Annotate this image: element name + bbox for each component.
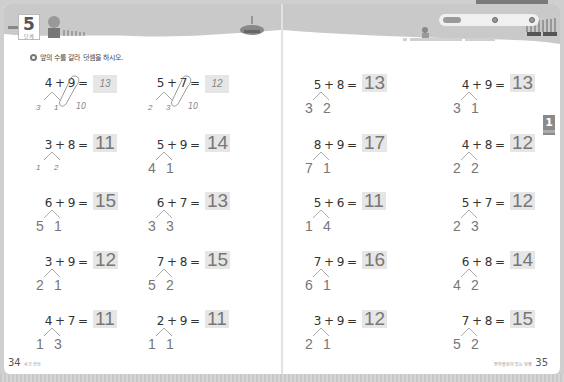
split-part-1[interactable]: 1 (148, 336, 156, 352)
answer-box[interactable]: 13 (205, 192, 230, 210)
equals-sign: = (493, 194, 507, 212)
answer-box[interactable]: 11 (205, 310, 229, 328)
split-part-1[interactable]: 3 (148, 218, 156, 234)
answer-box[interactable]: 17 (362, 134, 387, 152)
answer-box[interactable]: 12 (510, 192, 535, 210)
addend-a: 5 (156, 74, 165, 92)
split-part-2[interactable]: 2 (471, 277, 479, 293)
equals-sign: = (493, 312, 507, 330)
answer-box[interactable]: 11 (362, 192, 386, 210)
addition-problem: 5+8=1332 (313, 74, 433, 118)
answer-box[interactable]: 11 (93, 310, 117, 328)
chapter-tab-label: 1 (545, 116, 553, 129)
equation: 5+7=12 (461, 192, 535, 210)
page-number: 35 (535, 357, 548, 368)
split-part-2[interactable]: 1 (54, 218, 62, 234)
split-part-1[interactable]: 1 (36, 336, 44, 352)
split-part-1[interactable]: 6 (305, 277, 313, 293)
split-part-2[interactable]: 2 (471, 160, 479, 176)
chapter-tab[interactable]: 1 (543, 115, 555, 135)
equation: 5+7=12 (156, 74, 229, 92)
split-part-2[interactable]: 3 (54, 336, 62, 352)
split-part-1[interactable]: 5 (148, 277, 156, 293)
equation: 7+8=15 (156, 251, 230, 269)
answer-box[interactable]: 13 (93, 75, 117, 93)
answer-box[interactable]: 12 (362, 310, 387, 328)
split-part-2[interactable]: 2 (323, 100, 331, 116)
split-part-2[interactable]: 1 (323, 277, 331, 293)
equation: 6+9=15 (44, 192, 118, 210)
split-part-1[interactable]: 4 (453, 277, 461, 293)
addend-a: 4 (44, 74, 53, 92)
bullet-icon (30, 54, 37, 61)
equals-sign: = (76, 194, 90, 212)
split-part-1[interactable]: 3 (36, 103, 40, 112)
split-part-2[interactable]: 2 (471, 336, 479, 352)
equals-sign: = (76, 312, 90, 330)
equals-sign: = (345, 136, 359, 154)
progress-dot (492, 17, 498, 23)
split-part-1[interactable]: 2 (305, 336, 313, 352)
ten-label: 10 (188, 102, 198, 111)
equals-sign: = (188, 136, 202, 154)
progress-indicator (439, 14, 539, 26)
split-part-2[interactable]: 1 (166, 160, 174, 176)
equals-sign: = (345, 312, 359, 330)
answer-box[interactable]: 14 (205, 134, 230, 152)
addition-problem: 5+6=1114 (313, 192, 433, 236)
answer-box[interactable]: 16 (362, 251, 387, 269)
split-part-2[interactable]: 1 (323, 160, 331, 176)
split-part-2[interactable]: 3 (166, 218, 174, 234)
split-part-1[interactable]: 5 (36, 218, 44, 234)
split-part-2[interactable]: 2 (54, 163, 58, 172)
progress-pill (443, 17, 461, 23)
split-part-1[interactable]: 5 (453, 336, 461, 352)
answer-box[interactable]: 13 (510, 74, 535, 92)
addition-problem: 6+8=1442 (461, 251, 560, 295)
addition-problem: 5+9=1441 (156, 134, 276, 178)
header-wave (4, 4, 281, 38)
split-part-1[interactable]: 1 (36, 163, 40, 172)
answer-box[interactable]: 11 (93, 134, 117, 152)
equation: 3+8=11 (44, 134, 117, 152)
split-part-2[interactable]: 1 (471, 100, 479, 116)
answer-box[interactable]: 15 (510, 310, 535, 328)
equation: 5+8=13 (313, 74, 387, 92)
equation: 6+8=14 (461, 251, 535, 269)
answer-box[interactable]: 12 (93, 251, 118, 269)
split-part-1[interactable]: 4 (148, 160, 156, 176)
split-part-1[interactable]: 2 (453, 160, 461, 176)
left-page: 5 단계 앞의 수를 갈라 덧셈을 하시오. 4+9=1331105+7=122… (4, 4, 281, 374)
split-part-2[interactable]: 1 (54, 277, 62, 293)
split-part-1[interactable]: 2 (36, 277, 44, 293)
answer-box[interactable]: 12 (205, 75, 229, 93)
split-part-1[interactable]: 1 (305, 218, 313, 234)
equals-sign: = (345, 253, 359, 271)
split-part-1[interactable]: 3 (305, 100, 313, 116)
split-part-1[interactable]: 3 (453, 100, 461, 116)
split-part-2[interactable]: 2 (166, 277, 174, 293)
answer-box[interactable]: 13 (362, 74, 387, 92)
equation: 7+9=16 (313, 251, 387, 269)
answer-box[interactable]: 12 (510, 134, 535, 152)
equation: 3+9=12 (313, 310, 387, 328)
answer-box[interactable]: 15 (205, 251, 230, 269)
addition-problem: 7+8=1552 (461, 310, 560, 354)
split-part-2[interactable]: 1 (166, 336, 174, 352)
equation: 5+6=11 (313, 192, 386, 210)
equation: 4+9=13 (461, 74, 535, 92)
answer-box[interactable]: 15 (93, 192, 118, 210)
split-part-1[interactable]: 2 (453, 218, 461, 234)
split-part-2[interactable]: 3 (471, 218, 479, 234)
split-part-2[interactable]: 1 (323, 336, 331, 352)
addition-problem: 7+8=1552 (156, 251, 276, 295)
answer-box[interactable]: 14 (510, 251, 535, 269)
split-part-2[interactable]: 4 (323, 218, 331, 234)
equals-sign: = (493, 253, 507, 271)
split-part-1[interactable]: 7 (305, 160, 313, 176)
split-part-1[interactable]: 2 (148, 103, 152, 112)
equation: 4+9=13 (44, 74, 117, 92)
equation: 3+9=12 (44, 251, 118, 269)
footer-label: 사고 연산 (24, 361, 41, 367)
progress-dot (529, 17, 535, 23)
